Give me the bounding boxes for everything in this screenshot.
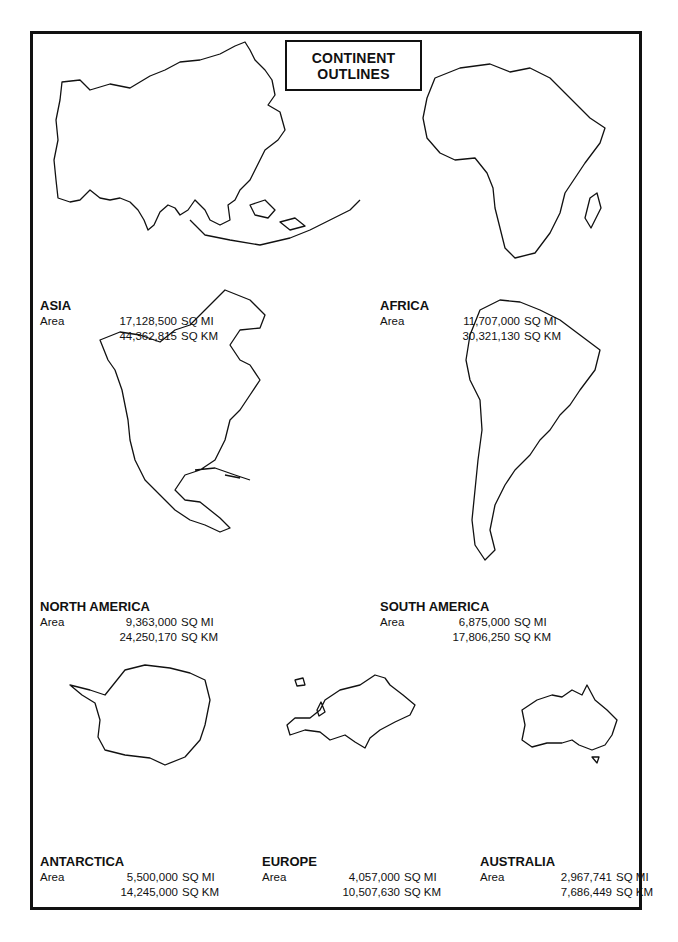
australia-label: AUSTRALIA Area2,967,741SQ MI 7,686,449SQ… <box>480 853 653 900</box>
europe-label: EUROPE Area4,057,000SQ MI 10,507,630SQ K… <box>262 853 441 900</box>
australia-outline <box>517 685 622 770</box>
antarctica-label: ANTARCTICA Area5,500,000SQ MI 14,245,000… <box>40 853 219 900</box>
continent-name: ANTARCTICA <box>40 853 219 870</box>
asia-outline <box>50 40 360 285</box>
south-america-label: SOUTH AMERICA Area6,875,000SQ MI 17,806,… <box>380 598 551 645</box>
antarctica-outline <box>70 665 215 765</box>
continent-name: AUSTRALIA <box>480 853 653 870</box>
africa-outline <box>415 58 625 268</box>
europe-outline <box>285 670 425 760</box>
north-america-label: NORTH AMERICA Area9,363,000SQ MI 24,250,… <box>40 598 218 645</box>
continent-name: EUROPE <box>262 853 441 870</box>
south-america-outline <box>460 290 610 580</box>
north-america-outline <box>90 270 280 590</box>
continent-name: SOUTH AMERICA <box>380 598 551 615</box>
continent-name: NORTH AMERICA <box>40 598 218 615</box>
